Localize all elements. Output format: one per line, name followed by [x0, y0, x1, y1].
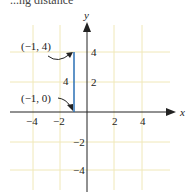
svg-text:4: 4 [91, 46, 97, 58]
svg-text:−2: −2 [73, 136, 85, 148]
x-tick-labels: −4 −2 2 4 [26, 115, 146, 127]
x-axis-label: x [179, 106, 185, 118]
arrowhead-top [66, 52, 73, 58]
svg-text:−4: −4 [73, 164, 85, 176]
arrowhead-bottom [67, 104, 73, 111]
y-tick-labels: 4 2 −2 −4 [73, 46, 97, 176]
segment-length-label: 4 [63, 75, 69, 87]
svg-text:−4: −4 [26, 115, 38, 127]
svg-text:2: 2 [112, 115, 118, 127]
arrow-top [48, 54, 70, 60]
svg-text:−2: −2 [53, 115, 65, 127]
y-axis-label: y [83, 9, 89, 21]
coordinate-plane: x y −4 −2 2 4 4 2 −2 −4 4 (−1, 4) (−1, 0… [0, 0, 189, 192]
point-label-top: (−1, 4) [21, 40, 51, 53]
point-label-bottom: (−1, 0) [21, 92, 51, 105]
svg-text:4: 4 [140, 115, 146, 127]
svg-text:2: 2 [91, 76, 97, 88]
